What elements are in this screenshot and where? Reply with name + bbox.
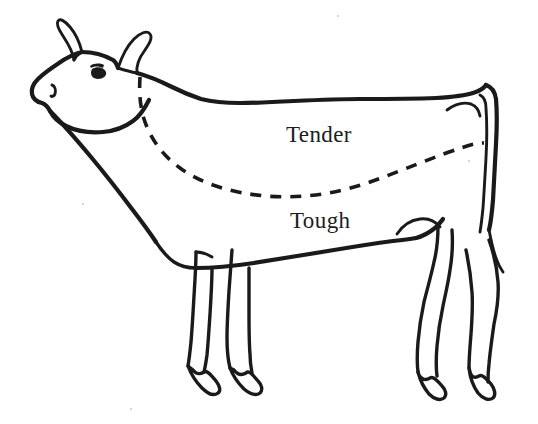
front-leg-near-back-edge — [204, 268, 212, 372]
label-tender: Tender — [286, 122, 352, 148]
tail-outline — [486, 85, 497, 230]
cow-diagram-illustration — [0, 0, 538, 424]
brisket-outline — [156, 242, 196, 268]
belly-line — [196, 238, 416, 268]
hind-leg-far-back-edge — [488, 240, 498, 382]
nostril-icon — [51, 85, 55, 96]
scan-speck — [82, 203, 84, 205]
hoof-hind-far-icon — [469, 368, 495, 399]
eye-icon — [91, 67, 106, 79]
hind-leg-near-back-edge — [436, 230, 452, 376]
hind-leg-near-front-edge — [417, 226, 438, 372]
scan-speck — [337, 15, 339, 17]
eye-lash-icon — [90, 64, 104, 68]
hind-leg-far-front-edge — [466, 250, 472, 368]
hoof-front-near-icon — [188, 366, 220, 394]
topline-back-outline — [137, 73, 486, 103]
scan-speck — [468, 160, 470, 162]
horn-right-inner-edge — [118, 68, 137, 73]
tail-root-hook — [447, 103, 480, 116]
hoof-hind-near-icon — [418, 372, 446, 399]
front-leg-far-back-edge — [249, 268, 252, 373]
horn-right-icon — [118, 32, 151, 73]
scan-speck — [130, 408, 132, 410]
head-outline — [32, 52, 149, 132]
hoof-front-far-icon — [230, 368, 262, 394]
label-tough: Tough — [290, 208, 350, 234]
diagram-canvas: Tender Tough — [0, 0, 538, 424]
front-leg-near-shoulder-top — [196, 252, 212, 257]
